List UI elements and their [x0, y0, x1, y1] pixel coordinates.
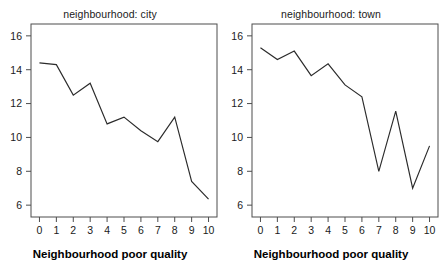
x-tick-label: 8 [393, 224, 399, 236]
x-tick-label: 3 [87, 224, 93, 236]
panel-city-y-axis: 6810121416 [10, 30, 31, 211]
x-tick-label: 7 [376, 224, 382, 236]
panel-town: neighbourhood: town 6810121416 012345678… [221, 0, 441, 274]
panel-town-frame [252, 24, 438, 217]
x-tick-label: 6 [359, 224, 365, 236]
panel-town-data-line [260, 48, 429, 189]
y-tick-label: 12 [10, 97, 22, 109]
x-tick-label: 2 [291, 224, 297, 236]
y-tick-label: 6 [237, 199, 243, 211]
x-tick-label: 0 [258, 224, 264, 236]
x-tick-label: 9 [410, 224, 416, 236]
y-tick-label: 8 [16, 165, 22, 177]
x-tick-label: 4 [325, 224, 331, 236]
y-tick-label: 10 [231, 131, 243, 143]
panel-town-xlabel: Neighbourhood poor quality [221, 248, 441, 260]
y-tick-label: 10 [10, 131, 22, 143]
y-tick-label: 16 [231, 30, 243, 42]
x-tick-label: 5 [342, 224, 348, 236]
figure-container: neighbourhood: city 6810121416 012345678… [0, 0, 441, 274]
x-tick-label: 8 [172, 224, 178, 236]
x-tick-label: 4 [104, 224, 110, 236]
panel-city-data-line [39, 63, 208, 199]
panel-city-xlabel: Neighbourhood poor quality [0, 248, 220, 260]
panel-city-plot: 6810121416 012345678910 [0, 0, 220, 274]
x-tick-label: 3 [308, 224, 314, 236]
x-tick-label: 6 [138, 224, 144, 236]
panel-town-y-axis: 6810121416 [231, 30, 252, 211]
panel-city-x-axis: 012345678910 [37, 217, 215, 236]
panel-city-frame [31, 24, 217, 217]
x-tick-label: 0 [37, 224, 43, 236]
y-tick-label: 8 [237, 165, 243, 177]
y-tick-label: 14 [231, 64, 243, 76]
x-tick-label: 1 [274, 224, 280, 236]
x-tick-label: 7 [155, 224, 161, 236]
y-tick-label: 12 [231, 97, 243, 109]
y-tick-label: 16 [10, 30, 22, 42]
x-tick-label: 10 [424, 224, 436, 236]
x-tick-label: 9 [189, 224, 195, 236]
panel-town-x-axis: 012345678910 [258, 217, 436, 236]
panel-city: neighbourhood: city 6810121416 012345678… [0, 0, 220, 274]
panel-town-plot: 6810121416 012345678910 [221, 0, 441, 274]
x-tick-label: 2 [70, 224, 76, 236]
y-tick-label: 6 [16, 199, 22, 211]
x-tick-label: 1 [53, 224, 59, 236]
x-tick-label: 5 [121, 224, 127, 236]
x-tick-label: 10 [203, 224, 215, 236]
y-tick-label: 14 [10, 64, 22, 76]
